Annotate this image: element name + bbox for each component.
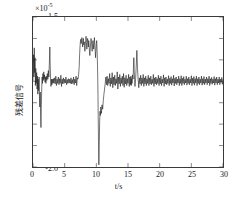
x-tick-label: 20	[156, 170, 164, 179]
plot-area	[32, 16, 224, 168]
x-tick-label: 30	[220, 170, 228, 179]
x-tick-label: 5	[62, 170, 66, 179]
x-axis-label-text: t/s	[115, 182, 123, 191]
exponent-power: -5	[48, 2, 53, 8]
x-tick-label: 15	[124, 170, 132, 179]
signal-polyline	[33, 36, 223, 165]
figure: ×10-5 残差信号 1.51.00.50-0.5-1.0-1.5-2.0 05…	[0, 0, 237, 199]
x-axis-label: t/s	[0, 182, 237, 191]
exponent-base: ×10	[35, 4, 48, 13]
x-tick-label: 10	[92, 170, 100, 179]
x-tick-label: 25	[188, 170, 196, 179]
y-axis-label: 残差信号	[13, 84, 24, 116]
residual-signal-curve	[33, 17, 223, 167]
x-tick-label: 0	[30, 170, 34, 179]
